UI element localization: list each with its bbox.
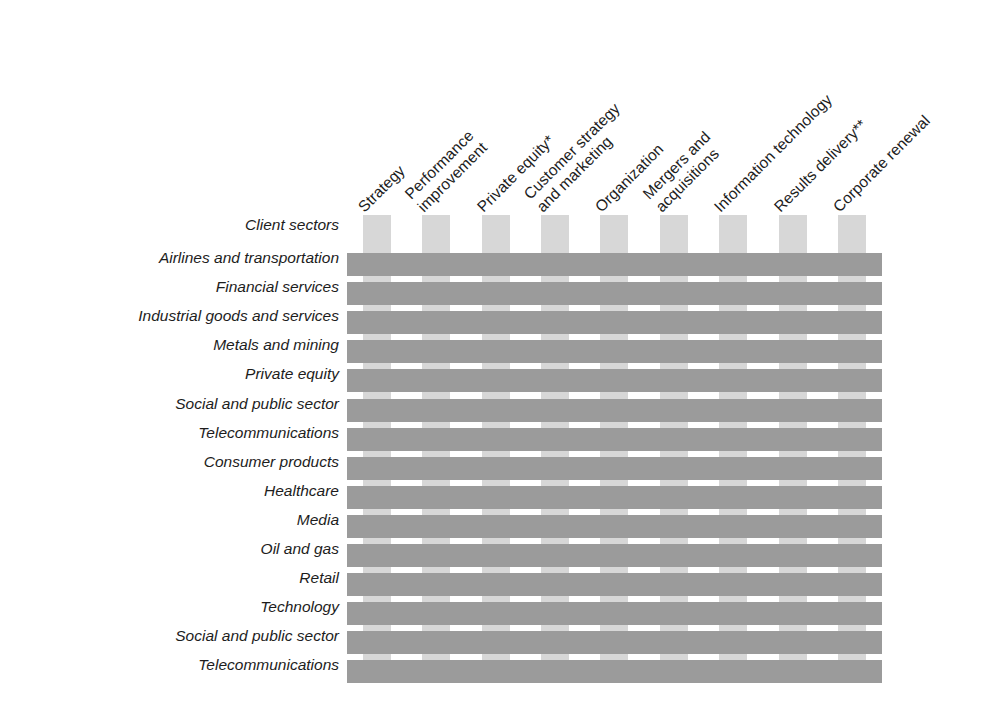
matrix-row-band xyxy=(347,340,882,363)
matrix-row-band xyxy=(347,399,882,422)
matrix-row-band xyxy=(347,457,882,480)
row-label-11: Oil and gas xyxy=(0,540,339,558)
matrix-row-band xyxy=(347,311,882,334)
matrix-row-band xyxy=(347,602,882,625)
column-header-7: Information technology xyxy=(711,90,836,215)
row-label-10: Media xyxy=(0,511,339,529)
row-label-12: Retail xyxy=(0,569,339,587)
row-label-9: Healthcare xyxy=(0,482,339,500)
row-label-2: Financial services xyxy=(0,278,339,296)
matrix-row-band xyxy=(347,369,882,392)
matrix-row-band xyxy=(347,515,882,538)
matrix-row-band xyxy=(347,282,882,305)
matrix-row-band xyxy=(347,486,882,509)
client-sectors-capabilities-matrix: StrategyPerformanceimprovementPrivate eq… xyxy=(0,0,1003,708)
row-label-8: Consumer products xyxy=(0,453,339,471)
column-header-group: StrategyPerformanceimprovementPrivate eq… xyxy=(0,0,1003,215)
matrix-row-band xyxy=(347,660,882,683)
row-label-5: Private equity xyxy=(0,365,339,383)
column-header-line1: Information technology xyxy=(711,90,835,214)
matrix-row-band xyxy=(347,631,882,654)
matrix-row-band xyxy=(347,573,882,596)
row-label-13: Technology xyxy=(0,598,339,616)
matrix-grid xyxy=(347,215,882,680)
matrix-row-band xyxy=(347,428,882,451)
row-label-14: Social and public sector xyxy=(0,627,339,645)
row-label-7: Telecommunications xyxy=(0,424,339,442)
row-label-4: Metals and mining xyxy=(0,336,339,354)
row-label-1: Airlines and transportation xyxy=(0,249,339,267)
matrix-row-band xyxy=(347,544,882,567)
column-header-1: Strategy xyxy=(354,161,408,215)
row-label-6: Social and public sector xyxy=(0,395,339,413)
row-label-3: Industrial goods and services xyxy=(0,307,339,325)
row-label-15: Telecommunications xyxy=(0,656,339,674)
matrix-row-band xyxy=(347,253,882,276)
row-header-label: Client sectors xyxy=(0,216,339,234)
column-header-line1: Strategy xyxy=(354,161,407,214)
